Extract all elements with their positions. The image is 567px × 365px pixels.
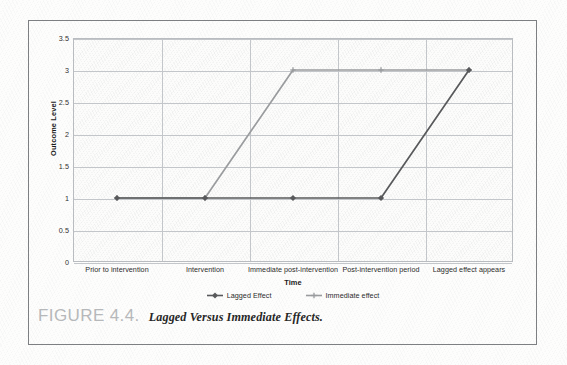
- figure-caption: FIGURE 4.4. Lagged Versus Immediate Effe…: [38, 306, 323, 326]
- legend-item: Lagged Effect: [207, 291, 272, 300]
- y-axis-tick-label: 3: [39, 66, 69, 75]
- x-axis-tick-label: Immediate post-intervention: [248, 265, 338, 274]
- legend-label: Immediate effect: [326, 291, 380, 300]
- legend-diamond-marker-icon: [207, 291, 223, 300]
- data-series-layer: [73, 38, 513, 262]
- chart-legend: Lagged EffectImmediate effect: [73, 288, 513, 302]
- x-axis-title: Time: [73, 278, 513, 287]
- chart-figure: 00.511.522.533.5 Outcome Level Prior to …: [28, 20, 537, 345]
- legend-label: Lagged Effect: [227, 291, 272, 300]
- y-axis-tick-label: 3.5: [39, 34, 69, 43]
- y-axis-tick-label: 0.5: [39, 226, 69, 235]
- figure-number-label: FIGURE 4.4.: [38, 306, 140, 326]
- y-axis-title: Outcome Level: [49, 84, 58, 174]
- y-axis-tick-label: 0: [39, 258, 69, 267]
- y-axis-tick-label: 1: [39, 194, 69, 203]
- legend-plus-marker-icon: [306, 291, 322, 300]
- x-axis-tick-label: Intervention: [186, 265, 224, 274]
- gridline-horizontal: [74, 263, 512, 264]
- series-immediate-effect: [114, 67, 471, 200]
- x-axis-tick-label: Prior to intervention: [85, 265, 148, 274]
- legend-item: Immediate effect: [306, 291, 380, 300]
- x-axis-tick-labels: Prior to interventionInterventionImmedia…: [73, 265, 513, 279]
- x-axis-tick-label: Post-intervention period: [342, 265, 419, 274]
- x-axis-tick-label: Lagged effect appears: [433, 265, 505, 274]
- figure-title-label: Lagged Versus Immediate Effects.: [149, 310, 323, 325]
- series-lagged-effect: [114, 67, 472, 201]
